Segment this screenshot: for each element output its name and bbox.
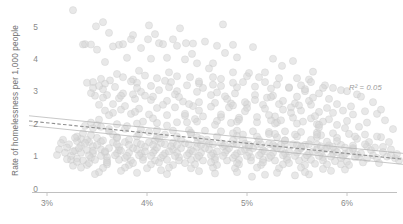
scatter-point [91,171,98,178]
scatter-point [171,152,178,159]
scatter-point [155,87,162,94]
scatter-point [253,164,260,171]
scatter-point [129,91,136,98]
scatter-point [195,168,202,175]
scatter-point [329,109,336,116]
scatter-point [173,42,180,49]
scatter-point [169,36,176,43]
scatter-point [163,171,170,178]
scatter-point [149,115,156,122]
scatter-point [143,165,150,172]
scatter-point [329,84,336,91]
scatter-point [233,159,240,166]
scatter-point [149,141,156,148]
scatter-point [347,103,354,110]
scatter-point [123,54,130,61]
x-axis-tick-label: 4% [132,198,162,208]
scatter-point [165,164,172,171]
scatter-point [92,23,99,30]
scatter-point [269,55,276,62]
scatter-point [243,73,250,80]
scatter-point [63,156,70,163]
scatter-point [269,141,276,148]
scatter-point [145,128,152,135]
scatter-point [141,72,148,79]
scatter-point [105,29,112,36]
scatter-point [229,69,236,76]
scatter-point [171,104,178,111]
scatter-chart: Rate of homelessness per 1,000 people 3%… [0,0,403,224]
scatter-point [99,19,106,26]
scatter-point [95,116,102,123]
scatter-point [93,46,100,53]
scatter-point [209,74,216,81]
scatter-point [229,79,236,86]
scatter-point [267,152,274,159]
scatter-point [137,141,144,148]
scatter-point [211,170,218,177]
scatter-point [327,167,334,174]
scatter-point [117,92,124,99]
scatter-point [259,159,266,166]
scatter-point [137,44,144,51]
scatter-point [241,108,248,115]
scatter-point [113,134,120,141]
scatter-point [151,31,158,38]
scatter-point [87,132,94,139]
scatter-point [381,117,388,124]
scatter-point [267,85,274,92]
scatter-point [207,103,214,110]
scatter-point [261,78,268,85]
scatter-point [111,83,118,90]
scatter-point [95,101,102,108]
scatter-point [119,41,126,48]
y-axis-tick-label: 0 [16,184,38,194]
scatter-point [213,42,220,49]
scatter-point [211,121,218,128]
scatter-point [135,67,142,74]
scatter-point [185,101,192,108]
scatter-point [201,38,208,45]
scatter-point [229,102,236,109]
scatter-point [87,41,94,48]
scatter-point [69,7,76,14]
scatter-point [325,95,332,102]
scatter-point [135,152,142,159]
scatter-point [248,173,255,180]
scatter-point [261,105,268,112]
y-axis-tick-label: 4 [16,54,38,64]
scatter-point [183,82,190,89]
scatter-point [303,152,310,159]
scatter-point [209,81,216,88]
scatter-point [105,112,112,119]
scatter-point [161,77,168,84]
plot-area [0,0,403,224]
x-axis-tick-label: 6% [332,198,362,208]
scatter-point [227,119,234,126]
scatter-point [119,74,126,81]
scatter-point [221,141,228,148]
scatter-point [101,148,108,155]
scatter-point [159,41,166,48]
scatter-point [287,109,294,116]
scatter-point [233,169,240,176]
scatter-point [176,25,183,32]
scatter-point [163,122,170,129]
scatter-point [69,148,76,155]
scatter-point [275,75,282,82]
scatter-point [155,159,162,166]
scatter-point [217,75,224,82]
y-axis-tick-label: 3 [16,86,38,96]
scatter-point [243,152,250,159]
scatter-point [385,138,392,145]
scatter-point [253,119,260,126]
scatter-point [131,108,138,115]
scatter-point [319,84,326,91]
scatter-point [297,82,304,89]
scatter-point [195,152,202,159]
scatter-point [349,111,356,118]
scatter-point [207,159,214,166]
scatter-point [183,152,190,159]
r-squared-annotation: R² = 0.05 [349,83,382,92]
scatter-point [191,115,198,122]
